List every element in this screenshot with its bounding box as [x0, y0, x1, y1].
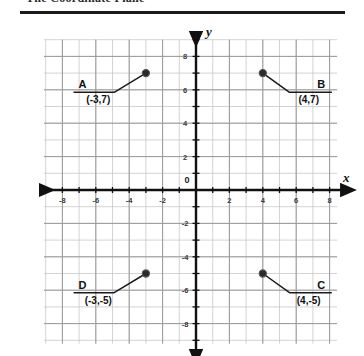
y-tick-label: 8	[183, 52, 187, 61]
point-label-letter: D	[78, 279, 86, 291]
point-marker[interactable]	[259, 270, 266, 277]
x-tick-label: 2	[227, 196, 231, 205]
point-label-coordinates: (4,7)	[298, 94, 319, 105]
origin-label: 0	[184, 175, 189, 185]
y-tick-label: -6	[182, 286, 189, 295]
title-divider	[20, 11, 345, 14]
coordinate-plane-page: The Coordinate Plane -8-6-4-224688642-2-…	[0, 0, 364, 356]
x-tick-label: 6	[294, 196, 298, 205]
point-label-letter: A	[78, 78, 86, 90]
y-tick-label: 2	[183, 153, 187, 162]
point-label-coordinates: (-3,7)	[86, 94, 110, 105]
axis-name-labels: xy	[204, 24, 350, 185]
x-tick-label: -4	[126, 196, 133, 205]
y-tick-label: -8	[182, 320, 189, 329]
coordinate-plane-svg: -8-6-4-224688642-2-4-6-80 xy A(-3,7)B(4,…	[0, 16, 364, 356]
x-axis-name: x	[342, 170, 350, 185]
page-title-strip: The Coordinate Plane	[0, 0, 364, 9]
point-label-coordinates: (-3,-5)	[85, 295, 112, 306]
point-label-letter: B	[317, 78, 325, 90]
x-tick-label: -8	[59, 196, 66, 205]
x-tick-label: 8	[328, 196, 332, 205]
point-label-letter: C	[317, 279, 325, 291]
x-tick-label: -6	[92, 196, 99, 205]
x-tick-label: 4	[261, 196, 266, 205]
x-tick-label: -2	[159, 196, 166, 205]
point-marker[interactable]	[142, 270, 149, 277]
y-tick-label: -2	[182, 219, 189, 228]
point-marker[interactable]	[142, 70, 149, 77]
point-label-texts: A(-3,7)B(4,7)C(4,-5)D(-3,-5)	[78, 78, 325, 305]
y-tick-label: -4	[182, 253, 189, 262]
y-tick-label: 6	[183, 86, 187, 95]
y-axis-name: y	[204, 24, 212, 39]
coordinate-plane-figure: -8-6-4-224688642-2-4-6-80 xy A(-3,7)B(4,…	[0, 16, 364, 356]
point-label-coordinates: (4,-5)	[297, 295, 321, 306]
page-title: The Coordinate Plane	[26, 0, 145, 6]
point-marker[interactable]	[259, 70, 266, 77]
